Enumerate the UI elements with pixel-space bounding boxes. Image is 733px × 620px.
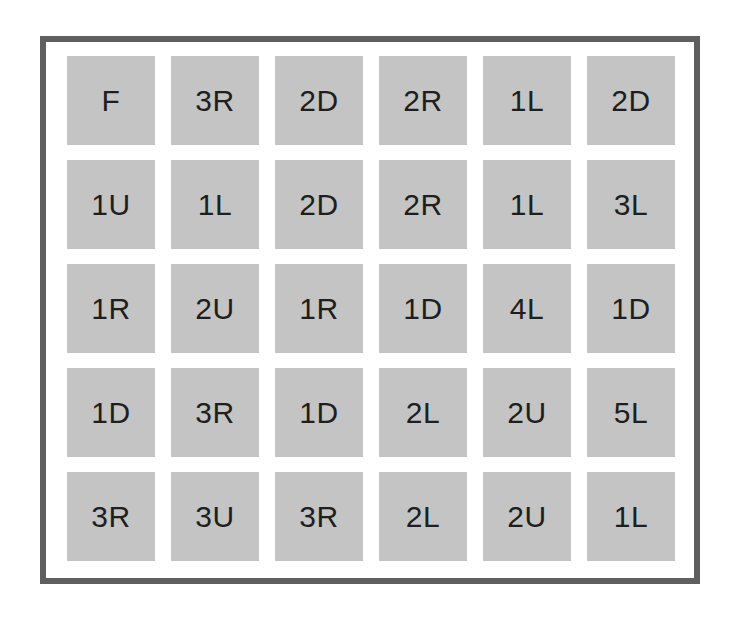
grid-cell: 1L (483, 56, 571, 145)
grid-cell: 1D (275, 368, 363, 457)
grid-cell: F (67, 56, 155, 145)
grid-cell: 3R (67, 472, 155, 561)
grid-cell: 2D (275, 56, 363, 145)
grid-cell: 2L (379, 368, 467, 457)
grid-cell: 2U (483, 368, 571, 457)
puzzle-board: F 3R 2D 2R 1L 2D 1U 1L 2D 2R 1L 3L 1R 2U… (40, 36, 700, 584)
grid-cell: 5L (587, 368, 675, 457)
grid-cell: 2D (275, 160, 363, 249)
grid-cell: 1L (171, 160, 259, 249)
grid-cell: 2R (379, 160, 467, 249)
grid-cell: 1L (587, 472, 675, 561)
grid-cell: 1U (67, 160, 155, 249)
grid-cell: 4L (483, 264, 571, 353)
grid-cell: 2U (171, 264, 259, 353)
grid-cell: 2U (483, 472, 571, 561)
grid-cell: 3R (171, 56, 259, 145)
grid-cell: 3R (275, 472, 363, 561)
grid-cell: 3L (587, 160, 675, 249)
grid-cell: 1D (379, 264, 467, 353)
grid-cell: 2D (587, 56, 675, 145)
grid-cell: 2L (379, 472, 467, 561)
grid-cell: 2R (379, 56, 467, 145)
grid-cell: 3U (171, 472, 259, 561)
puzzle-grid: F 3R 2D 2R 1L 2D 1U 1L 2D 2R 1L 3L 1R 2U… (67, 56, 675, 561)
grid-cell: 1L (483, 160, 571, 249)
grid-cell: 1D (67, 368, 155, 457)
grid-cell: 1R (67, 264, 155, 353)
grid-cell: 3R (171, 368, 259, 457)
grid-cell: 1D (587, 264, 675, 353)
grid-cell: 1R (275, 264, 363, 353)
